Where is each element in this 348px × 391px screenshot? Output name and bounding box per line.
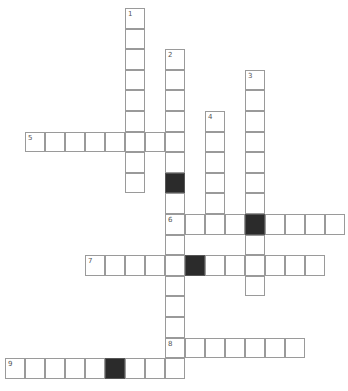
crossword-cell[interactable] bbox=[145, 255, 165, 276]
crossword-cell[interactable] bbox=[245, 111, 265, 132]
crossword-cell[interactable] bbox=[165, 132, 185, 153]
crossword-cell[interactable] bbox=[205, 255, 225, 276]
crossword-cell[interactable]: 8 bbox=[165, 338, 185, 359]
crossword-grid: 126834579 bbox=[0, 0, 348, 391]
clue-number: 3 bbox=[248, 72, 252, 80]
crossword-cell[interactable] bbox=[105, 132, 125, 153]
crossword-cell[interactable] bbox=[165, 255, 185, 276]
crossword-cell[interactable] bbox=[265, 214, 285, 235]
clue-number: 6 bbox=[168, 216, 172, 224]
crossword-cell[interactable] bbox=[285, 338, 305, 359]
black-cell bbox=[105, 358, 125, 379]
crossword-cell[interactable] bbox=[245, 173, 265, 194]
clue-number: 1 bbox=[128, 10, 132, 18]
crossword-cell[interactable] bbox=[325, 214, 345, 235]
crossword-cell[interactable] bbox=[45, 132, 65, 153]
crossword-cell[interactable] bbox=[165, 317, 185, 338]
clue-number: 8 bbox=[168, 340, 172, 348]
crossword-cell[interactable] bbox=[265, 338, 285, 359]
crossword-cell[interactable]: 3 bbox=[245, 70, 265, 91]
crossword-cell[interactable]: 4 bbox=[205, 111, 225, 132]
crossword-cell[interactable] bbox=[225, 214, 245, 235]
crossword-cell[interactable] bbox=[105, 255, 125, 276]
crossword-cell[interactable] bbox=[45, 358, 65, 379]
crossword-cell[interactable] bbox=[305, 214, 325, 235]
clue-number: 5 bbox=[28, 134, 32, 142]
crossword-cell[interactable] bbox=[245, 152, 265, 173]
crossword-cell[interactable] bbox=[125, 49, 145, 70]
crossword-cell[interactable] bbox=[205, 152, 225, 173]
crossword-cell[interactable] bbox=[205, 338, 225, 359]
crossword-cell[interactable] bbox=[245, 276, 265, 297]
crossword-cell[interactable] bbox=[85, 358, 105, 379]
crossword-cell[interactable] bbox=[165, 90, 185, 111]
crossword-cell[interactable] bbox=[165, 235, 185, 256]
crossword-cell[interactable] bbox=[125, 90, 145, 111]
crossword-cell[interactable] bbox=[245, 90, 265, 111]
crossword-cell[interactable] bbox=[125, 29, 145, 50]
black-cell bbox=[165, 173, 185, 194]
crossword-cell[interactable] bbox=[205, 173, 225, 194]
crossword-cell[interactable] bbox=[205, 193, 225, 214]
crossword-cell[interactable] bbox=[205, 214, 225, 235]
crossword-cell[interactable]: 7 bbox=[85, 255, 105, 276]
crossword-cell[interactable] bbox=[305, 255, 325, 276]
crossword-cell[interactable] bbox=[125, 152, 145, 173]
crossword-cell[interactable] bbox=[25, 358, 45, 379]
crossword-cell[interactable] bbox=[245, 132, 265, 153]
clue-number: 2 bbox=[168, 51, 172, 59]
crossword-cell[interactable] bbox=[65, 358, 85, 379]
crossword-cell[interactable]: 2 bbox=[165, 49, 185, 70]
crossword-cell[interactable] bbox=[245, 338, 265, 359]
crossword-cell[interactable] bbox=[165, 358, 185, 379]
crossword-cell[interactable] bbox=[165, 296, 185, 317]
crossword-cell[interactable] bbox=[265, 255, 285, 276]
clue-number: 7 bbox=[88, 257, 92, 265]
black-cell bbox=[245, 214, 265, 235]
crossword-cell[interactable]: 1 bbox=[125, 8, 145, 29]
crossword-cell[interactable] bbox=[145, 132, 165, 153]
crossword-cell[interactable] bbox=[165, 152, 185, 173]
clue-number: 9 bbox=[8, 360, 12, 368]
crossword-cell[interactable]: 9 bbox=[5, 358, 25, 379]
crossword-cell[interactable] bbox=[125, 132, 145, 153]
crossword-cell[interactable] bbox=[125, 173, 145, 194]
clue-number: 4 bbox=[208, 113, 212, 121]
crossword-cell[interactable] bbox=[65, 132, 85, 153]
crossword-cell[interactable] bbox=[125, 111, 145, 132]
crossword-cell[interactable] bbox=[225, 255, 245, 276]
crossword-cell[interactable] bbox=[245, 193, 265, 214]
black-cell bbox=[185, 255, 205, 276]
crossword-cell[interactable] bbox=[245, 235, 265, 256]
crossword-cell[interactable] bbox=[165, 276, 185, 297]
crossword-cell[interactable] bbox=[185, 338, 205, 359]
crossword-cell[interactable] bbox=[245, 255, 265, 276]
crossword-cell[interactable] bbox=[225, 338, 245, 359]
crossword-cell[interactable] bbox=[165, 193, 185, 214]
crossword-cell[interactable] bbox=[285, 255, 305, 276]
crossword-cell[interactable] bbox=[125, 255, 145, 276]
crossword-cell[interactable] bbox=[125, 70, 145, 91]
crossword-cell[interactable]: 5 bbox=[25, 132, 45, 153]
crossword-cell[interactable] bbox=[205, 132, 225, 153]
crossword-cell[interactable] bbox=[165, 70, 185, 91]
crossword-cell[interactable] bbox=[165, 111, 185, 132]
crossword-cell[interactable] bbox=[285, 214, 305, 235]
crossword-cell[interactable] bbox=[145, 358, 165, 379]
crossword-cell[interactable] bbox=[85, 132, 105, 153]
crossword-cell[interactable] bbox=[185, 214, 205, 235]
crossword-cell[interactable]: 6 bbox=[165, 214, 185, 235]
crossword-cell[interactable] bbox=[125, 358, 145, 379]
